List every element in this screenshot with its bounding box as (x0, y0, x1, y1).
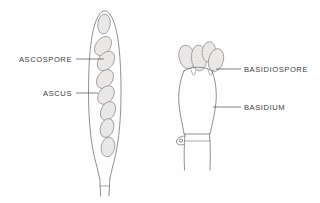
clamp-connection-icon (176, 136, 185, 145)
label-ascospore-text: ASCOSPORE (19, 55, 72, 64)
label-ascospore[interactable]: ASCOSPORE (19, 55, 104, 64)
label-basidium-text: BASIDIUM (244, 103, 285, 112)
diagram-canvas: ASCOSPORE ASCUS BASIDIOSPORE BASIDIUM (0, 0, 320, 203)
label-ascus-text: ASCUS (43, 89, 72, 98)
label-basidiospore[interactable]: BASIDIOSPORE (216, 65, 308, 74)
sterigmata-group (191, 70, 213, 75)
basidiospore-set (176, 41, 226, 73)
basidium-body (179, 67, 217, 134)
ascospore-set (91, 13, 119, 158)
ascus-stalk (100, 178, 110, 196)
label-basidium[interactable]: BASIDIUM (213, 103, 285, 112)
fungal-spore-diagram: ASCOSPORE ASCUS BASIDIOSPORE BASIDIUM (0, 0, 320, 203)
ascospore (96, 13, 111, 35)
basidium-stalk (184, 134, 210, 170)
label-layer: ASCOSPORE ASCUS BASIDIOSPORE BASIDIUM (19, 55, 308, 112)
ascus-group (89, 11, 122, 196)
ascospore (98, 117, 116, 139)
label-basidiospore-text: BASIDIOSPORE (244, 65, 308, 74)
basidium-group (176, 41, 226, 170)
clamp-connection-pore (179, 139, 182, 142)
ascospore (100, 136, 117, 158)
label-ascus[interactable]: ASCUS (43, 89, 98, 98)
sterigma (191, 70, 196, 75)
